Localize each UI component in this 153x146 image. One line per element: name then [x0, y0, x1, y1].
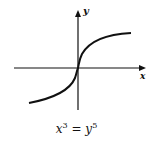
equation: x3 = y5	[0, 121, 153, 136]
y-axis-arrow-icon	[75, 10, 81, 17]
x-axis-label: x	[140, 71, 145, 81]
y-axis-label: y	[83, 5, 89, 16]
